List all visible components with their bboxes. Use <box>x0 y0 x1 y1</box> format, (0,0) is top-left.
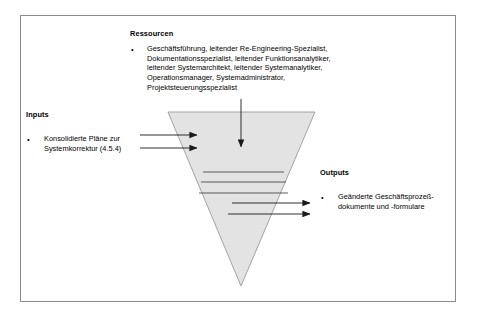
inputs-bullet-icon: • <box>27 136 30 143</box>
resources-line-1: Geschäftsführung, leitender Re-Engineeri… <box>147 44 327 54</box>
resources-heading: Ressourcen <box>130 29 173 38</box>
funnel-triangle <box>168 112 315 286</box>
resources-line-5: Projektsteuerungsspezialist <box>147 83 237 93</box>
resources-line-2: Dokumentationsspezialist, leitender Funk… <box>147 54 331 64</box>
resources-line-3: leitender Systemarchitekt, leitender Sys… <box>147 63 322 73</box>
outputs-heading: Outputs <box>320 168 349 177</box>
inputs-line-2: Systemkorrektur (4.5.4) <box>44 144 121 154</box>
outputs-line-2: dokumente und -formulare <box>338 202 425 212</box>
resources-bullet-icon: • <box>131 46 134 53</box>
inputs-line-1: Konsolidierte Pläne zur <box>44 134 120 144</box>
outputs-bullet-icon: • <box>321 194 324 201</box>
diagram-canvas: Ressourcen • Geschäftsführung, leitender… <box>0 0 478 321</box>
outputs-line-1: Geänderte Geschäftsprozeß- <box>338 192 434 202</box>
resources-line-4: Operationsmanager, Systemadministrator, <box>147 73 285 83</box>
inputs-heading: Inputs <box>26 110 49 119</box>
